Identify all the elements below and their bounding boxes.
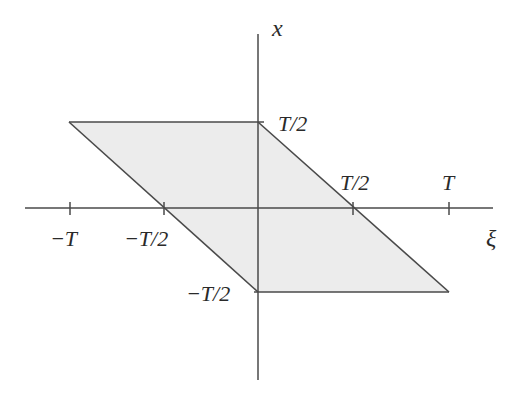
diagram-canvas: x ξ −T −T/2 T/2 T T/2 −T/2 — [0, 0, 525, 402]
label-minus-T-half: −T/2 — [124, 226, 168, 251]
label-x-minus-T-half: −T/2 — [186, 281, 230, 306]
label-T: T — [442, 170, 456, 195]
x-axis-label: x — [271, 15, 283, 41]
label-T-half: T/2 — [340, 170, 369, 195]
label-minus-T: −T — [50, 226, 79, 251]
xi-axis-label: ξ — [486, 225, 497, 251]
shaded-region — [69, 122, 449, 292]
label-x-T-half: T/2 — [278, 111, 307, 136]
